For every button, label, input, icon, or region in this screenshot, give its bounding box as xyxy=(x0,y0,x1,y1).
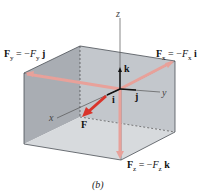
fy-eq: = − xyxy=(14,48,30,59)
figure-caption: (b) xyxy=(92,180,104,190)
fz-unit: k xyxy=(164,159,170,170)
y-axis-label: y xyxy=(162,88,166,98)
fz-equation: Fz = −Fz k xyxy=(127,160,170,173)
fz-magsub: z xyxy=(159,165,162,173)
fx-equation: Fx = −Fx i xyxy=(156,49,197,62)
force-f-label: F xyxy=(81,120,87,130)
fz-eq: = − xyxy=(136,159,152,170)
j-label: j xyxy=(135,92,138,102)
fx-unit: i xyxy=(194,48,197,59)
x-axis-label: x xyxy=(49,113,53,123)
box-diagram xyxy=(0,0,203,194)
fx-eq: = − xyxy=(166,48,182,59)
z-axis-label: z xyxy=(116,9,120,19)
force-components-figure: z y x k j i F Fy = −Fy j Fx = −Fx i Fz =… xyxy=(0,0,203,194)
fx-magsub: x xyxy=(188,54,192,62)
fy-equation: Fy = −Fy j xyxy=(4,49,45,62)
fy-magsub: y xyxy=(36,54,40,62)
fy-unit: j xyxy=(42,48,45,59)
k-label: k xyxy=(124,64,130,74)
i-label: i xyxy=(112,95,115,105)
j-unit-vector xyxy=(120,89,136,90)
